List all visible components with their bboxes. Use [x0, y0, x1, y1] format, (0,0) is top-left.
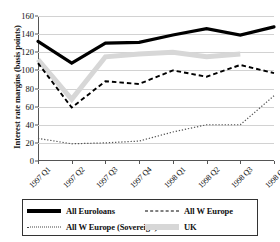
legend-label: All W Europe (Sovereign) [66, 222, 157, 232]
legend-label: UK [184, 222, 197, 232]
x-tick-mark [274, 161, 275, 164]
x-tick-label: 1998 Q1 [162, 165, 187, 190]
x-tick-label: 1997 Q2 [61, 165, 86, 190]
series-lines [38, 16, 274, 161]
legend-label: All W Europe [184, 206, 233, 216]
y-tick-label: 80 [26, 84, 35, 94]
y-tick-label: 160 [21, 11, 34, 21]
x-axis-labels: 1997 Q11997 Q21997 Q31997 Q41998 Q11998 … [38, 163, 274, 197]
legend-item-all-euroloans: All Euroloans [27, 206, 145, 216]
legend-row: All Euroloans All W Europe [27, 203, 253, 219]
legend-label: All Euroloans [66, 206, 115, 216]
x-tick-label: 1998 Q3 [230, 165, 255, 190]
y-tick-label: 140 [21, 29, 34, 39]
series-line [38, 27, 274, 63]
legend-row: All W Europe (Sovereign) UK [27, 219, 253, 235]
line-swatch-icon [27, 207, 61, 216]
gray-band-swatch-icon [145, 223, 179, 232]
series-line [38, 96, 274, 144]
legend-item-uk: UK [145, 222, 253, 232]
y-tick-label: 20 [26, 138, 35, 148]
dashed-line-swatch-icon [145, 207, 179, 216]
y-tick-label: 120 [21, 47, 34, 57]
x-tick-label: 1997 Q3 [95, 165, 120, 190]
plot-area: 020406080100120140160 [38, 16, 274, 161]
y-tick-label: 0 [30, 156, 34, 166]
x-tick-label: 1998 Q2 [196, 165, 221, 190]
x-tick-label: 1998 Q4 [263, 165, 280, 190]
x-tick-label: 1997 Q1 [27, 165, 52, 190]
dotted-line-swatch-icon [27, 223, 61, 232]
legend-item-all-w-europe: All W Europe [145, 206, 253, 216]
y-tick-label: 100 [21, 65, 34, 75]
chart-legend: All Euroloans All W Europe All W Europe … [22, 199, 258, 236]
x-tick-label: 1997 Q4 [128, 165, 153, 190]
y-tick-label: 40 [26, 120, 35, 130]
line-chart: Interest rate margins (basis points) 020… [0, 0, 280, 242]
legend-item-all-w-europe-sovereign: All W Europe (Sovereign) [27, 222, 145, 232]
y-tick-label: 60 [26, 102, 35, 112]
